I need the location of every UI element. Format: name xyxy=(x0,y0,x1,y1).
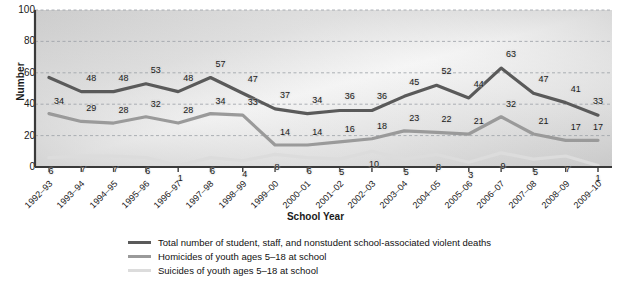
x-tick-label: 2008–09 xyxy=(534,178,571,215)
x-tick-label: 2002–03 xyxy=(341,178,378,215)
legend-label: Homicides of youth ages 5–18 at school xyxy=(158,251,326,262)
x-tick-label: 2004–05 xyxy=(405,178,442,215)
legend-item: Total number of student, staff, and nons… xyxy=(128,235,491,249)
x-axis-title: School Year xyxy=(0,211,631,222)
x-tick-label: 2001–02 xyxy=(308,178,345,215)
chart-legend: Total number of student, staff, and nons… xyxy=(128,235,491,277)
x-tick-label: 2007–08 xyxy=(502,178,539,215)
x-tick-label: 1993–94 xyxy=(50,178,87,215)
legend-swatch-icon xyxy=(128,241,151,244)
x-tick-label: 1996–97 xyxy=(147,178,184,215)
legend-label: Suicides of youth ages 5–18 at school xyxy=(158,265,318,276)
legend-label: Total number of student, staff, and nons… xyxy=(158,237,491,248)
x-tick-label: 1999–00 xyxy=(244,178,281,215)
legend-item: Suicides of youth ages 5–18 at school xyxy=(128,263,491,277)
x-tick-label: 1995–96 xyxy=(115,178,152,215)
x-tick-label: 2009–10 xyxy=(567,178,604,215)
x-tick-label: 2000–01 xyxy=(276,178,313,215)
x-tick-label: 2003–04 xyxy=(373,178,410,215)
x-tick-label: 1998–99 xyxy=(212,178,249,215)
legend-swatch-icon xyxy=(128,269,151,272)
x-tick-label: 2006–07 xyxy=(470,178,507,215)
x-tick-label: 1994–95 xyxy=(82,178,119,215)
violent-deaths-line-chart: Number 020406080100 484853485 xyxy=(0,0,631,285)
legend-item: Homicides of youth ages 5–18 at school xyxy=(128,249,491,263)
x-tick-label: 1997–98 xyxy=(179,178,216,215)
legend-swatch-icon xyxy=(128,255,151,258)
x-tick-label: 2005–06 xyxy=(438,178,475,215)
x-tick-label: 1992–93 xyxy=(18,178,55,215)
x-axis-tick-labels: 1992–931993–941994–951995–961996–971997–… xyxy=(0,0,631,215)
